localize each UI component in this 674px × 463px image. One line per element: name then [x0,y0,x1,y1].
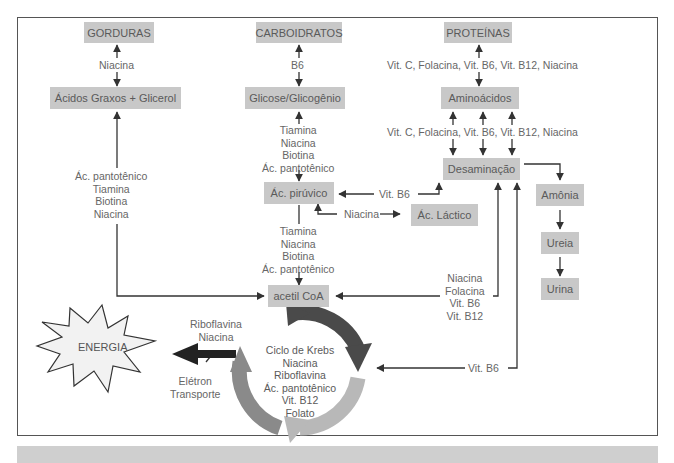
label-desamin-piruvico: Vit. B6 [379,188,410,201]
label-piruvico-acetil: Tiamina Niacina Biotina Ác. pantotênico [262,225,334,275]
label-eletron-transporte: Elétron Transporte [170,375,220,400]
node-gorduras: GORDURAS [84,22,154,43]
node-desaminacao: Desaminação [443,158,520,180]
node-urina: Urina [541,278,579,300]
node-ac-lactico: Ác. Láctico [411,204,478,226]
label-piruvico-lactico: Niacina [344,208,379,221]
label-amino-vitamins: Vit. C, Folacina, Vit. B6, Vit. B12, Nia… [387,126,578,139]
node-ureia: Ureia [541,232,579,254]
node-acetil-coa: acetil CoA [268,285,329,307]
node-energia: ENERGIA [78,341,128,353]
node-amonia: Amônia [536,184,584,206]
krebs-cycle-text: Ciclo de Krebs Niacina Riboflavina Ác. p… [258,344,342,419]
node-carboidratos: CARBOIDRATOS [256,22,342,43]
node-proteinas: PROTEÍNAS [444,22,512,43]
node-aminoacidos: Aminoácidos [441,87,519,109]
label-glicose-piruvico: Tiamina Niacina Biotina Ác. pantotênico [262,124,334,174]
node-glicose: Glicose/Glicogênio [245,87,345,109]
label-acidos-acetil: Ác. pantotênico Tiamina Biotina Niacina [75,170,147,220]
node-acidos-graxos: Ácidos Graxos + Glicerol [50,87,181,109]
label-gorduras-niacina: Niacina [99,59,134,72]
node-ac-piruvico: Ác. pirúvico [264,182,334,204]
label-proteinas-vitamins: Vit. C, Folacina, Vit. B6, Vit. B12, Nia… [387,59,578,72]
energy-arrow [172,343,236,365]
label-desamin-krebs: Vit. B6 [468,362,499,375]
label-desamin-acetil: Niacina Folacina Vit. B6 Vit. B12 [445,272,485,322]
label-carbo-b6: B6 [291,59,304,72]
label-krebs-energia-top: Riboflavina Niacina [190,318,242,343]
